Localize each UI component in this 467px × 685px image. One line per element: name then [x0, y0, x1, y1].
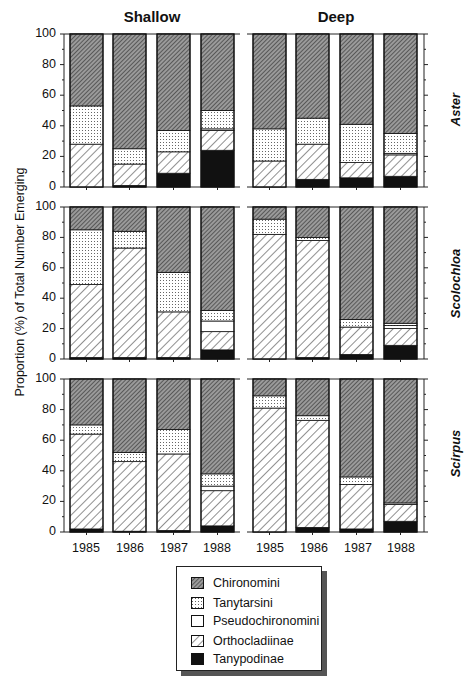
row-title-aster: Aster — [448, 70, 463, 150]
bar-segment-chironomini — [157, 379, 190, 429]
bar-segment-tanytarsini — [201, 310, 234, 321]
bar-segment-orthocladiinae — [113, 248, 146, 357]
panel-scirpus-deep — [247, 379, 428, 535]
y-tick-label: 80 — [26, 229, 56, 243]
legend-item-tanytarsini: Tanytarsini — [191, 595, 273, 611]
year-label-shallow-1985: 1985 — [66, 541, 106, 555]
bar-segment-orthocladiinae — [201, 491, 234, 526]
bar-segment-orthocladiinae — [157, 152, 190, 173]
y-tick-label: 0 — [26, 179, 56, 193]
bar-segment-tanypodinae — [201, 150, 234, 187]
bar-segment-chironomini — [157, 207, 190, 272]
bar-segment-tanypodinae — [201, 526, 234, 532]
chironomini-swatch-icon — [191, 577, 204, 589]
panel-aster-shallow — [60, 34, 240, 190]
bar-segment-chironomini — [296, 34, 329, 118]
bar-segment-tanytarsini — [157, 272, 190, 312]
bar-segment-pseudochironomini — [384, 326, 417, 329]
legend-item-orthocladiinae: Orthocladiinae — [191, 633, 294, 649]
y-axis-label: Proportion (%) of Total Number Emerging — [13, 152, 27, 412]
bar-segment-orthocladiinae — [70, 434, 103, 529]
bar-segment-tanytarsini — [296, 416, 329, 421]
panel-scolochloa-shallow — [60, 207, 240, 362]
y-tick-label: 100 — [26, 26, 56, 40]
orthocladiinae-swatch-icon — [191, 635, 204, 647]
bar-segment-orthocladiinae — [113, 164, 146, 185]
bar-segment-tanytarsini — [340, 319, 373, 327]
legend: Chironomini Tanytarsini Pseudochironomin… — [176, 566, 322, 671]
bar-segment-chironomini — [340, 34, 373, 124]
bar-segment-chironomini — [113, 379, 146, 452]
bar-segment-orthocladiinae — [253, 234, 286, 359]
bar-segment-tanytarsini — [113, 452, 146, 461]
bar-segment-tanytarsini — [157, 130, 190, 151]
bar-segment-chironomini — [113, 207, 146, 231]
bar-segment-tanytarsini — [113, 231, 146, 248]
bar-segment-pseudochironomini — [201, 321, 234, 332]
bar-segment-orthocladiinae — [296, 144, 329, 179]
bar-segment-tanypodinae — [296, 179, 329, 187]
bar-segment-tanypodinae — [340, 178, 373, 187]
bar-segment-tanytarsini — [340, 477, 373, 485]
bar-segment-tanytarsini — [253, 219, 286, 234]
bar-segment-chironomini — [340, 379, 373, 477]
bar-segment-chironomini — [201, 34, 234, 111]
legend-item-pseudochironomini: Pseudochironomini — [191, 613, 319, 629]
bar-segment-tanytarsini — [340, 124, 373, 162]
y-tick-label: 60 — [26, 432, 56, 446]
panel-scolochloa-deep — [247, 207, 428, 362]
bar-segment-tanytarsini — [253, 396, 286, 408]
panels-group — [60, 34, 428, 535]
bar-segment-chironomini — [201, 379, 234, 474]
y-tick-label: 60 — [26, 260, 56, 274]
y-tick-label: 80 — [26, 402, 56, 416]
row-title-scolochloa: Scolochloa — [448, 234, 463, 334]
panel-aster-deep — [247, 34, 428, 190]
y-tick-label: 20 — [26, 321, 56, 335]
bar-segment-orthocladiinae — [253, 161, 286, 187]
bar-segment-tanypodinae — [384, 345, 417, 359]
bar-segment-orthocladiinae — [157, 454, 190, 530]
row-title-scirpus: Scirpus — [448, 414, 463, 494]
y-tick-label: 60 — [26, 87, 56, 101]
bar-segment-chironomini — [113, 34, 146, 149]
bar-segment-chironomini — [384, 379, 417, 503]
year-label-shallow-1988: 1988 — [197, 541, 237, 555]
y-tick-label: 20 — [26, 493, 56, 507]
year-label-deep-1987: 1987 — [338, 541, 378, 555]
y-tick-label: 0 — [26, 351, 56, 365]
bar-segment-orthocladiinae — [340, 327, 373, 354]
bar-segment-chironomini — [384, 34, 417, 133]
bar-segment-tanytarsini — [70, 425, 103, 434]
y-tick-label: 40 — [26, 118, 56, 132]
bar-segment-chironomini — [340, 207, 373, 319]
legend-label: Chironomini — [213, 576, 280, 590]
bar-segment-tanypodinae — [201, 350, 234, 359]
tanypodinae-swatch-icon — [191, 653, 204, 665]
bar-segment-tanytarsini — [201, 111, 234, 129]
legend-item-chironomini: Chironomini — [191, 575, 280, 591]
bar-segment-chironomini — [70, 207, 103, 230]
y-tick-label: 0 — [26, 524, 56, 538]
pseudochironomini-swatch-icon — [191, 615, 204, 627]
bar-segment-tanypodinae — [384, 521, 417, 532]
bar-segment-tanypodinae — [384, 176, 417, 187]
column-title-deep: Deep — [296, 8, 376, 25]
bar-segment-tanypodinae — [340, 354, 373, 359]
bar-segment-chironomini — [70, 34, 103, 106]
bar-segment-tanytarsini — [384, 133, 417, 153]
bar-segment-chironomini — [253, 34, 286, 129]
bar-segment-orthocladiinae — [201, 130, 234, 150]
legend-label: Orthocladiinae — [213, 634, 294, 648]
y-tick-label: 80 — [26, 57, 56, 71]
bar-segment-orthocladiinae — [70, 285, 103, 358]
bar-segment-chironomini — [253, 379, 286, 396]
bar-segment-orthocladiinae — [70, 144, 103, 187]
bar-segment-orthocladiinae — [384, 155, 417, 176]
bar-segment-tanytarsini — [70, 230, 103, 285]
bar-segment-orthocladiinae — [340, 163, 373, 178]
bar-segment-tanytarsini — [253, 129, 286, 161]
y-tick-label: 100 — [26, 371, 56, 385]
legend-label: Tanypodinae — [213, 652, 284, 666]
bar-segment-chironomini — [296, 379, 329, 416]
